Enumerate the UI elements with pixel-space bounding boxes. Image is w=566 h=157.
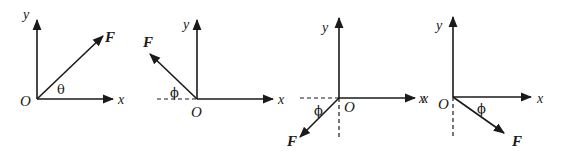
x-axis-label: x: [117, 92, 125, 107]
force-vector-diagrams: y x O F θ y x O F ϕ y x O F ϕ y x x: [0, 0, 566, 157]
panel-3: y x O F ϕ: [286, 18, 426, 149]
angle-phi-label: ϕ: [314, 103, 323, 118]
panel-4: y x x O F ϕ: [421, 17, 544, 149]
angle-phi-label: ϕ: [170, 85, 179, 100]
origin-label: O: [438, 96, 449, 112]
x-axis-label: x: [277, 92, 285, 107]
origin-label: O: [191, 104, 202, 120]
y-axis-label: y: [434, 18, 443, 33]
force-label: F: [286, 133, 297, 149]
y-axis-label: y: [181, 17, 190, 32]
y-axis-label: y: [320, 20, 329, 35]
negative-x-axis-label: x: [421, 91, 429, 106]
origin-label: O: [20, 93, 31, 109]
force-label: F: [142, 34, 153, 50]
panel-2: y x O F ϕ: [142, 17, 285, 120]
panel-1: y x O F θ: [20, 7, 125, 109]
angle-theta-label: θ: [57, 82, 65, 97]
y-axis-label: y: [21, 7, 30, 22]
force-label: F: [104, 29, 115, 45]
force-vector: [37, 36, 103, 99]
force-label: F: [511, 133, 522, 149]
angle-phi-label: ϕ: [477, 101, 486, 116]
origin-label: O: [344, 99, 355, 115]
x-axis-label: x: [536, 91, 544, 106]
